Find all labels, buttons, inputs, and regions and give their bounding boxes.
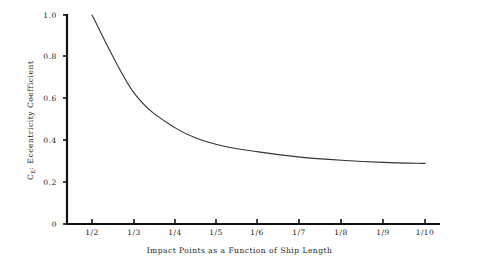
x-axis-title-part2: Ship Length: [280, 246, 332, 255]
x-tick-label-2: 1/4: [160, 228, 190, 237]
x-axis-title-part1: Impact Points as a Function of: [147, 246, 278, 255]
y-tick-label-0: 0: [27, 220, 57, 229]
y-tick-label-5: 1.0: [27, 11, 57, 20]
x-tick-label-3: 1/5: [201, 228, 231, 237]
chart-figure: 0 0.2 0.4 0.6 0.8 1.0 1/2 1/3 1/4 1/5 1/…: [0, 0, 479, 268]
data-curve: [92, 15, 425, 163]
y-axis-title-subscript: E: [30, 170, 36, 174]
y-axis-title: CE: Eccentricity Coefficient: [26, 40, 37, 200]
plot-area: [0, 0, 479, 268]
y-axis-title-prefix: C: [26, 174, 35, 180]
y-axis-title-rest: : Eccentricity Coefficient: [26, 61, 35, 170]
x-tick-label-0: 1/2: [77, 228, 107, 237]
x-tick-label-8: 1/10: [410, 228, 440, 237]
x-tick-label-6: 1/8: [326, 228, 356, 237]
x-tick-label-4: 1/6: [242, 228, 272, 237]
x-tick-label-1: 1/3: [119, 228, 149, 237]
x-axis-title: Impact Points as a Function ofShip Lengt…: [0, 246, 479, 255]
x-tick-label-5: 1/7: [284, 228, 314, 237]
x-tick-label-7: 1/9: [368, 228, 398, 237]
